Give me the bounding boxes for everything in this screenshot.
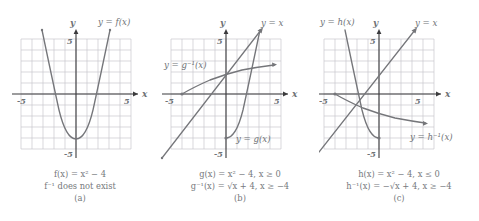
f-curve-endpoint-left xyxy=(41,29,43,31)
x-tick-positive-five: 5 xyxy=(415,96,421,106)
y-tick-positive-five: 5 xyxy=(370,36,376,46)
panel-b-letter: (b) xyxy=(160,192,320,204)
h-curve-label: y = h(x) xyxy=(319,17,355,27)
panel-c: x y -5 5 5 -5 y = x y = h(x) y = h⁻¹(x) … xyxy=(319,0,479,221)
g-curve xyxy=(226,30,260,138)
panel-c-plot: x y -5 5 5 -5 y = x y = h(x) y = h⁻¹(x) xyxy=(319,0,479,178)
h-inverse-curve xyxy=(335,94,425,123)
panel-c-letter: (c) xyxy=(319,192,479,204)
panel-c-caption-line-1: h(x) = x² − 4, x ≤ 0 xyxy=(319,168,479,180)
y-axis-arrow xyxy=(224,29,229,34)
x-axis-label: x xyxy=(444,89,451,99)
inverse-functions-figure: x y -5 5 5 -5 y = f(x) f(x) = x² − 4 f⁻¹… xyxy=(0,0,479,221)
g-inverse-curve-arrow xyxy=(272,63,277,68)
x-axis-arrow xyxy=(133,92,138,97)
y-tick-negative-five: -5 xyxy=(214,149,223,159)
y-tick-negative-five: -5 xyxy=(367,149,376,159)
g-inverse-curve-endpoint xyxy=(180,92,183,95)
panel-a-plot: x y -5 5 5 -5 y = f(x) xyxy=(0,0,160,178)
y-tick-negative-five: -5 xyxy=(64,149,73,159)
x-tick-negative-five: -5 xyxy=(319,96,328,106)
x-tick-positive-five: 5 xyxy=(274,96,280,106)
panel-a-caption-line-2: f⁻¹ does not exist xyxy=(0,180,160,192)
panel-a-caption-line-1: f(x) = x² − 4 xyxy=(0,168,160,180)
h-inverse-curve-label: y = h⁻¹(x) xyxy=(409,132,453,142)
g-inverse-curve-label: y = g⁻¹(x) xyxy=(163,60,207,70)
h-curve xyxy=(345,30,379,138)
panel-c-caption-line-2: h⁻¹(x) = −√x + 4, x ≥ −4 xyxy=(319,180,479,192)
x-axis-label: x xyxy=(291,89,298,99)
f-curve-label: y = f(x) xyxy=(97,17,130,27)
panel-a-caption: f(x) = x² − 4 f⁻¹ does not exist (a) xyxy=(0,168,160,205)
y-axis-arrow xyxy=(377,29,382,34)
f-curve-endpoint-right xyxy=(109,29,111,31)
y-axis-arrow xyxy=(74,29,79,34)
panel-b-plot: x y -5 5 5 -5 y = x y = g⁻¹(x) y = g(x) xyxy=(160,0,320,178)
panel-b-caption-line-1: g(x) = x² − 4, x ≥ 0 xyxy=(160,168,320,180)
identity-line-label: y = x xyxy=(260,18,284,28)
panel-b-caption: g(x) = x² − 4, x ≥ 0 g⁻¹(x) = √x + 4, x … xyxy=(160,168,320,205)
panel-c-caption: h(x) = x² − 4, x ≤ 0 h⁻¹(x) = −√x + 4, x… xyxy=(319,168,479,205)
h-inverse-curve-endpoint xyxy=(333,92,336,95)
x-tick-negative-five: -5 xyxy=(17,96,26,106)
x-axis-arrow xyxy=(283,92,288,97)
g-curve-label: y = g(x) xyxy=(235,134,271,144)
h-curve-endpoint xyxy=(377,136,380,139)
y-tick-positive-five: 5 xyxy=(217,36,223,46)
y-axis-label: y xyxy=(372,18,379,28)
g-curve-endpoint xyxy=(224,136,227,139)
panel-b: x y -5 5 5 -5 y = x y = g⁻¹(x) y = g(x) … xyxy=(160,0,320,221)
identity-line-label: y = x xyxy=(414,18,438,28)
panel-b-caption-line-2: g⁻¹(x) = √x + 4, x ≥ −4 xyxy=(160,180,320,192)
x-axis-arrow xyxy=(436,92,441,97)
h-inverse-curve-arrow xyxy=(423,121,428,126)
x-axis-label: x xyxy=(141,89,148,99)
x-tick-negative-five: -5 xyxy=(165,96,174,106)
panel-a-letter: (a) xyxy=(0,192,160,204)
x-tick-positive-five: 5 xyxy=(124,96,130,106)
y-tick-positive-five: 5 xyxy=(67,36,73,46)
y-axis-label: y xyxy=(69,18,76,28)
panel-a: x y -5 5 5 -5 y = f(x) f(x) = x² − 4 f⁻¹… xyxy=(0,0,160,221)
y-axis-label: y xyxy=(219,18,226,28)
